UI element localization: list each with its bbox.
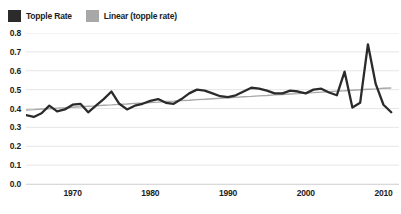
- y-axis-tick-label: 0.4: [10, 104, 21, 114]
- y-axis-tick-label: 0.2: [10, 141, 21, 151]
- series-swatch-icon: [8, 10, 21, 22]
- x-axis-line: [26, 184, 399, 185]
- y-axis-tick-label: 0.7: [10, 47, 21, 57]
- y-axis-tick-label: 0.6: [10, 66, 21, 76]
- x-axis-tick-label: 1980: [141, 188, 159, 198]
- x-axis-ticks: 19701980199020002010: [26, 188, 399, 208]
- y-axis-tick-label: 0.3: [10, 122, 21, 132]
- trendline-swatch-icon: [86, 10, 99, 22]
- legend-label-topple-rate: Topple Rate: [26, 10, 72, 22]
- chart-legend: Topple Rate Linear (topple rate): [8, 8, 177, 24]
- y-axis-tick-label: 0.0: [10, 179, 21, 189]
- chart-svg: [26, 33, 399, 184]
- x-axis-tick-label: 2000: [297, 188, 315, 198]
- legend-item-linear-trend: Linear (topple rate): [86, 10, 177, 22]
- y-axis-ticks: 0.00.10.20.30.40.50.60.70.8: [0, 33, 24, 184]
- x-axis-tick-label: 1990: [219, 188, 237, 198]
- legend-item-topple-rate: Topple Rate: [8, 10, 72, 22]
- gridlines: [26, 33, 399, 184]
- legend-label-linear-trend: Linear (topple rate): [104, 10, 177, 22]
- x-axis-tick-label: 1970: [64, 188, 82, 198]
- y-axis-tick-label: 0.1: [10, 160, 21, 170]
- x-axis-tick-label: 2010: [374, 188, 392, 198]
- plot-area: [26, 33, 399, 184]
- y-axis-tick-label: 0.8: [10, 28, 21, 38]
- y-axis-tick-label: 0.5: [10, 85, 21, 95]
- chart-container: Topple Rate Linear (topple rate) 0.00.10…: [0, 0, 401, 214]
